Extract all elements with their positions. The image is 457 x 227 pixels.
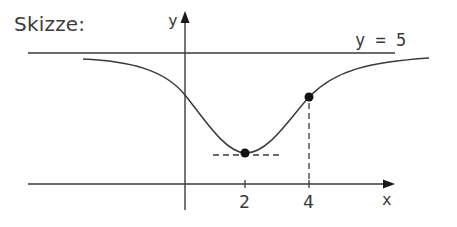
minimum-point (241, 149, 250, 158)
x-axis-arrow-icon (383, 180, 395, 189)
point-at-x4 (305, 93, 314, 102)
function-curve (83, 58, 429, 153)
x-axis-label: x (382, 190, 392, 209)
x-tick-label-2: 2 (239, 191, 250, 212)
function-sketch: y = 5 y x 2 4 (0, 0, 457, 227)
x-tick-label-4: 4 (303, 191, 314, 212)
y-axis-arrow-icon (181, 11, 190, 23)
asymptote-label: y = 5 (355, 30, 406, 50)
y-axis-label: y (168, 11, 178, 30)
